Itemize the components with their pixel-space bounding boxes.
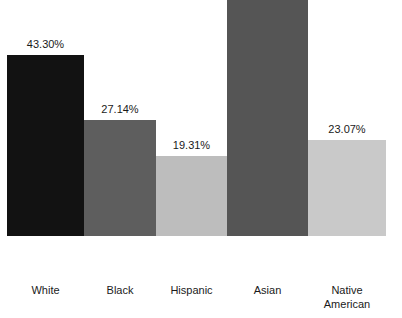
- bar-chart: 43.30% 27.14% 19.31% 59.13% 23.07% White: [0, 0, 402, 318]
- category-label-asian: Asian: [227, 283, 308, 297]
- bar-rect-black: [84, 120, 156, 236]
- category-label-line: White: [7, 283, 84, 297]
- bar-rect-white: [7, 55, 84, 236]
- category-label-line: Asian: [227, 283, 308, 297]
- category-label-white: White: [7, 283, 84, 297]
- bar-group-hispanic: 19.31%: [156, 156, 227, 236]
- bar-value-label: 19.31%: [156, 139, 227, 152]
- bar-group-black: 27.14%: [84, 120, 156, 236]
- bar-group-native-american: 23.07%: [308, 140, 386, 236]
- bar-value-label: 23.07%: [308, 123, 386, 136]
- plot-area: 43.30% 27.14% 19.31% 59.13% 23.07%: [0, 0, 402, 278]
- category-label-hispanic: Hispanic: [156, 283, 227, 297]
- category-label-line: American: [308, 297, 386, 311]
- category-label-line: Native: [308, 283, 386, 297]
- category-label-native-american: Native American: [308, 283, 386, 311]
- category-label-line: Hispanic: [156, 283, 227, 297]
- category-label-line: Black: [84, 283, 156, 297]
- bar-value-label: 27.14%: [84, 103, 156, 116]
- bar-rect-asian: [227, 0, 308, 236]
- bar-rect-hispanic: [156, 156, 227, 236]
- category-axis: White Black Hispanic Asian Native Americ…: [0, 283, 402, 318]
- category-label-black: Black: [84, 283, 156, 297]
- bar-group-white: 43.30%: [7, 55, 84, 236]
- bar-value-label: 43.30%: [7, 38, 84, 51]
- bar-rect-native-american: [308, 140, 386, 236]
- bar-group-asian: 59.13%: [227, 0, 308, 236]
